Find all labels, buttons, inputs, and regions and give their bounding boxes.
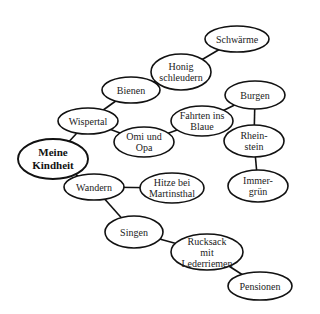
label-line: Immer- [243,175,273,186]
node-label-immergruen: Immer-grün [243,175,273,197]
label-line: Pensionen [239,281,280,292]
label-line: Lederriemen [181,258,232,269]
label-line: Honig [159,61,202,72]
node-label-rheinstein: Rhein-stein [240,130,267,152]
node-label-singen: Singen [120,227,148,238]
node-label-fahrten: Fahrten insBlaue [180,110,225,132]
node-label-honig: Honigschleudern [159,61,202,83]
label-line: Singen [120,227,148,238]
label-line: Omi und [126,131,161,142]
node-label-hitze: Hitze beiMartinsthal [149,177,195,199]
label-line: grün [243,186,273,197]
node-label-wandern: Wandern [76,182,112,193]
label-line: Opa [126,142,161,153]
label-line: Burgen [240,90,269,101]
label-line: Wispertal [69,116,107,127]
label-line: Blaue [180,121,225,132]
label-line: stein [240,141,267,152]
node-label-burgen: Burgen [240,90,269,101]
label-line: Kindheit [32,159,74,172]
label-line: Rucksack [181,236,232,247]
node-label-schwaerme: Schwärme [216,34,258,45]
node-label-bienen: Bienen [117,85,145,96]
node-label-rucksack: RucksackmitLederriemen [181,236,232,269]
label-line: Hitze bei [149,177,195,188]
label-line: Meine [32,146,74,159]
label-line: mit [181,247,232,258]
node-label-pensionen: Pensionen [239,281,280,292]
node-label-wispertal: Wispertal [69,116,107,127]
root-label: MeineKindheit [32,146,74,172]
label-line: Bienen [117,85,145,96]
label-line: schleudern [159,72,202,83]
label-line: Fahrten ins [180,110,225,121]
label-line: Wandern [76,182,112,193]
node-label-omi: Omi undOpa [126,131,161,153]
label-line: Schwärme [216,34,258,45]
label-line: Rhein- [240,130,267,141]
label-line: Martinsthal [149,188,195,199]
